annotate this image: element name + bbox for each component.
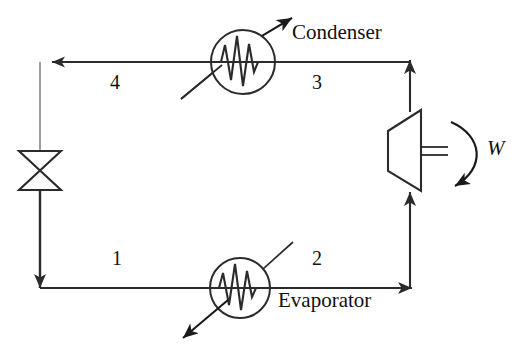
compressor-trapezoid-body [388,110,421,191]
state-point-label-2: 2 [312,248,322,268]
refrigeration-cycle-diagram: Condenser Evaporator 4 3 1 2 W [0,0,524,352]
state-point-label-3: 3 [312,72,322,92]
evaporator-label: Evaporator [278,290,371,311]
evaporator [183,242,293,338]
state-point-label-1: 1 [112,248,122,268]
work-input-label: W [487,138,505,159]
condenser [181,18,292,99]
condenser-diagonal-lead-upper [181,65,222,99]
cycle-schematic-svg [0,0,524,352]
work-input-arrow [451,122,477,186]
condenser-label: Condenser [292,22,382,43]
evaporator-heat-absorption-arrow [183,300,228,338]
state-point-label-4: 4 [110,72,120,92]
expansion-valve-bowtie-shape [19,151,61,190]
work-arrow-curve [451,122,477,186]
compressor [388,110,448,191]
expansion-valve [19,151,61,190]
